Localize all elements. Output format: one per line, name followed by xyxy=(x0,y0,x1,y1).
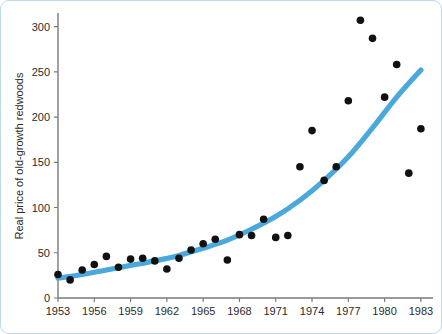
x-tick-label: 1965 xyxy=(191,305,215,317)
figure-frame: 050100150200250300 195319561959196219651… xyxy=(0,0,442,334)
x-tick-label: 1953 xyxy=(46,305,70,317)
data-point xyxy=(405,169,413,177)
data-points xyxy=(54,16,425,283)
data-point xyxy=(66,276,74,284)
data-point xyxy=(236,231,244,239)
x-tick-label: 1983 xyxy=(409,305,433,317)
data-point xyxy=(127,255,135,263)
y-tick-label: 250 xyxy=(32,66,50,78)
chart-plot-area: 050100150200250300 195319561959196219651… xyxy=(1,1,442,334)
trend-line xyxy=(58,70,421,278)
data-point xyxy=(308,127,316,135)
data-point xyxy=(393,61,401,69)
data-point xyxy=(260,215,268,223)
data-point xyxy=(199,240,207,248)
x-tick-label: 1977 xyxy=(336,305,360,317)
y-tick-label: 200 xyxy=(32,111,50,123)
y-tick-label: 0 xyxy=(44,292,50,304)
data-point xyxy=(284,232,292,240)
y-axis-ticks: 050100150200250300 xyxy=(32,21,58,304)
data-point xyxy=(115,263,123,271)
data-point xyxy=(357,16,365,24)
y-tick-label: 300 xyxy=(32,21,50,33)
data-point xyxy=(332,163,340,171)
y-tick-label: 100 xyxy=(32,202,50,214)
data-point xyxy=(272,234,280,242)
y-tick-label: 50 xyxy=(38,247,50,259)
data-point xyxy=(90,261,98,269)
x-tick-label: 1956 xyxy=(82,305,106,317)
redwood-price-scatter-chart: 050100150200250300 195319561959196219651… xyxy=(1,1,442,334)
data-point xyxy=(103,253,111,261)
data-point xyxy=(78,266,86,274)
data-point xyxy=(320,177,328,185)
y-tick-label: 150 xyxy=(32,156,50,168)
data-point xyxy=(163,265,171,273)
data-point xyxy=(139,254,147,262)
x-tick-label: 1962 xyxy=(155,305,179,317)
y-axis-title: Real price of old-growth redwoods xyxy=(13,72,25,239)
data-point xyxy=(296,163,304,171)
data-point xyxy=(151,257,159,265)
data-point xyxy=(224,256,232,264)
x-axis-ticks: 1953195619591962196519681971197419771980… xyxy=(46,298,433,317)
data-point xyxy=(345,97,353,105)
x-tick-label: 1959 xyxy=(118,305,142,317)
x-tick-label: 1974 xyxy=(300,305,324,317)
data-point xyxy=(248,232,256,240)
data-point xyxy=(381,93,389,101)
data-point xyxy=(369,35,377,43)
data-point xyxy=(187,246,195,254)
x-tick-label: 1968 xyxy=(227,305,251,317)
x-tick-label: 1980 xyxy=(372,305,396,317)
x-tick-label: 1971 xyxy=(263,305,287,317)
data-point xyxy=(175,254,183,262)
data-point xyxy=(211,235,219,243)
data-point xyxy=(54,271,62,279)
data-point xyxy=(417,125,425,133)
